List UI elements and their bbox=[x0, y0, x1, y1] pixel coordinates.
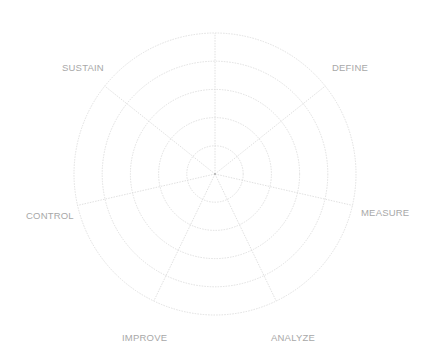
radar-chart: DEFINE MEASURE ANALYZE IMPROVE CONTROL S… bbox=[0, 0, 425, 359]
axis-label-control: CONTROL bbox=[26, 210, 74, 221]
radar-spokes bbox=[78, 33, 353, 301]
center-point bbox=[214, 173, 216, 175]
axis-label-analyze: ANALYZE bbox=[271, 332, 315, 343]
axis-label-define: DEFINE bbox=[332, 62, 368, 73]
spoke-control bbox=[78, 174, 216, 205]
spoke-analyze bbox=[215, 174, 276, 301]
axis-label-improve: IMPROVE bbox=[122, 332, 167, 343]
axis-labels: DEFINE MEASURE ANALYZE IMPROVE CONTROL S… bbox=[26, 62, 409, 343]
axis-label-sustain: SUSTAIN bbox=[62, 62, 104, 73]
spoke-improve bbox=[154, 174, 215, 301]
spoke-measure bbox=[215, 174, 353, 205]
axis-label-measure: MEASURE bbox=[361, 207, 409, 218]
